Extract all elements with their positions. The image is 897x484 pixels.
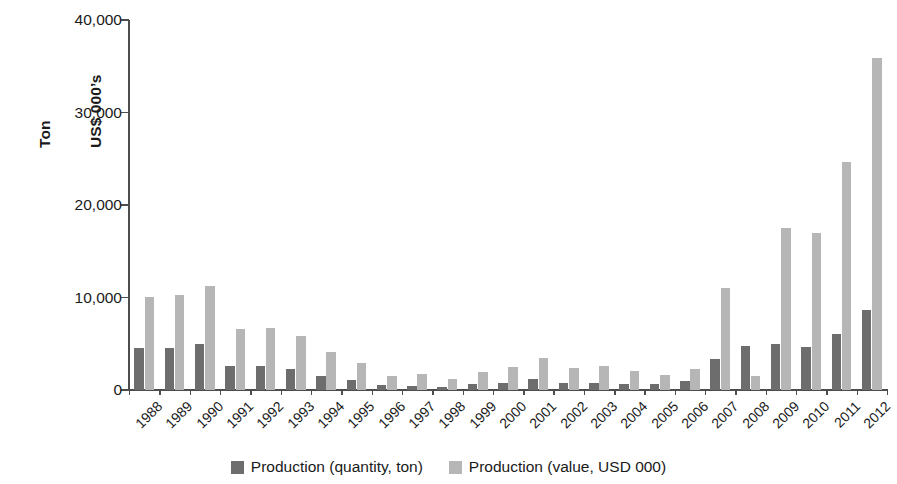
bar-2008-quantity: [741, 346, 751, 390]
bar-1988-quantity: [134, 348, 144, 390]
bar-2000-quantity: [498, 383, 508, 390]
bar-1993-value: [296, 336, 306, 390]
bar-1999-quantity: [468, 384, 478, 390]
bar-2002-quantity: [559, 383, 569, 390]
bar-2002-value: [569, 368, 579, 390]
bar-1989-quantity: [165, 348, 175, 390]
bar-1990-value: [205, 286, 215, 390]
bar-1990-quantity: [195, 344, 205, 390]
y-axis-tick: [121, 112, 129, 114]
bar-1988-value: [145, 297, 155, 390]
bar-2003-value: [599, 366, 609, 390]
legend-label: Production (quantity, ton): [251, 458, 423, 476]
bar-1996-quantity: [377, 385, 387, 390]
y-axis-tick: [121, 204, 129, 206]
y-axis-tick: [121, 297, 129, 299]
bar-2004-quantity: [619, 384, 629, 390]
bar-2001-quantity: [528, 379, 538, 390]
legend-item-value[interactable]: Production (value, USD 000): [449, 458, 666, 476]
bar-chart: Ton US$ 000’s 010,00020,00030,00040,000 …: [0, 0, 897, 484]
bar-1995-value: [357, 363, 367, 390]
bar-2011-quantity: [832, 334, 842, 390]
bar-1989-value: [175, 295, 185, 390]
y-axis-tick-label: 0: [113, 381, 122, 399]
bar-1992-quantity: [256, 366, 266, 390]
bar-1992-value: [266, 328, 276, 390]
bar-2009-quantity: [771, 344, 781, 390]
bar-1999-value: [478, 372, 488, 390]
bar-1997-quantity: [407, 386, 417, 390]
legend-swatch-icon: [231, 461, 244, 474]
bar-2000-value: [508, 367, 518, 390]
y-axis-tick-label: 40,000: [75, 11, 122, 29]
bar-2003-quantity: [589, 383, 599, 390]
bar-1997-value: [417, 374, 427, 390]
plot-area: [129, 20, 887, 390]
bar-1998-value: [448, 379, 458, 390]
bar-2001-value: [539, 358, 549, 390]
legend-label: Production (value, USD 000): [469, 458, 666, 476]
bar-2007-quantity: [710, 359, 720, 390]
bar-2006-quantity: [680, 381, 690, 390]
y-axis-title-line-1: Ton: [36, 28, 53, 148]
bar-2007-value: [721, 288, 731, 390]
bar-2011-value: [842, 162, 852, 390]
bar-2012-quantity: [862, 310, 872, 390]
y-axis-tick-label: 20,000: [75, 196, 122, 214]
chart-legend: Production (quantity, ton)Production (va…: [0, 458, 897, 476]
bar-2005-quantity: [650, 384, 660, 390]
bar-2009-value: [781, 228, 791, 390]
bar-2004-value: [630, 371, 640, 390]
bar-1993-quantity: [286, 369, 296, 390]
bar-2012-value: [872, 58, 882, 390]
bar-2005-value: [660, 375, 670, 390]
bar-1991-quantity: [225, 366, 235, 391]
y-axis-tick-label: 30,000: [75, 104, 122, 122]
bar-1998-quantity: [437, 387, 447, 390]
bar-2010-quantity: [801, 347, 811, 390]
bar-1994-quantity: [316, 376, 326, 390]
y-axis-tick-label: 10,000: [75, 289, 122, 307]
legend-swatch-icon: [449, 461, 462, 474]
bar-1994-value: [326, 352, 336, 390]
bar-2006-value: [690, 369, 700, 390]
bar-1991-value: [236, 329, 246, 390]
bar-1996-value: [387, 376, 397, 390]
bar-1995-quantity: [347, 380, 357, 390]
y-axis-title-line-2: US$ 000’s: [87, 28, 104, 148]
bar-2008-value: [751, 376, 761, 390]
legend-item-quantity[interactable]: Production (quantity, ton): [231, 458, 423, 476]
x-axis-tick: [887, 389, 888, 395]
y-axis-title: Ton US$ 000’s: [2, 28, 138, 148]
y-axis-tick: [121, 19, 129, 21]
bar-2010-value: [812, 233, 822, 390]
